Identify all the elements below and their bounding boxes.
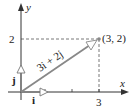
vector-j-label: j [11,74,16,86]
vector-j-arrowhead-icon [17,65,25,73]
y-tick-label-2: 2 [9,33,15,45]
vector-3i2j-label: 3i + 2j [34,48,65,74]
y-axis-arrow-icon [18,3,24,11]
point-3-2 [97,37,101,41]
vector-3i2j-arrowhead-icon [86,40,97,50]
point-label: (3, 2) [102,32,126,45]
vector-diagram: y x 2 3 (3, 2) i j 3i + 2j [0,0,132,112]
x-axis-label: x [119,77,125,89]
vector-i-label: i [32,94,35,106]
vector-i-arrowhead-icon [40,88,48,96]
y-axis-label: y [25,1,31,13]
x-tick-label-3: 3 [96,96,102,108]
x-axis-arrow-icon [121,89,129,95]
